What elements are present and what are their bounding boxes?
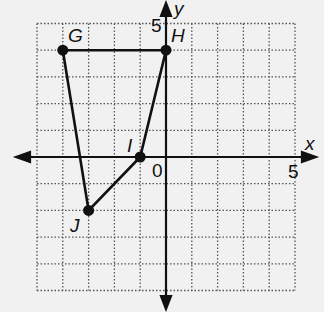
vertex-label-J: J [69,215,80,236]
vertex-point-I [135,152,146,163]
y-axis-label: y [172,0,185,19]
y-tick-5: 5 [151,15,162,36]
vertex-point-J [83,205,94,216]
vertex-label-G: G [68,25,83,46]
x-axis-label: x [304,133,316,154]
vertex-label-I: I [127,135,133,156]
origin-label: 0 [152,160,163,181]
x-tick-5: 5 [288,161,299,182]
vertex-point-G [57,45,68,56]
vertex-label-H: H [171,25,185,46]
coordinate-plane: x y 5 5 0 G H I J [0,0,324,312]
vertex-point-H [161,45,172,56]
